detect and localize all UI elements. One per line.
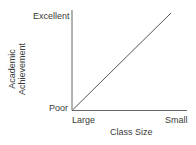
y-axis-title-line-2: Achievement — [17, 43, 27, 95]
y-tick-poor: Poor — [49, 103, 68, 113]
data-line — [73, 13, 172, 110]
y-tick-excellent: Excellent — [33, 11, 70, 21]
x-axis-title: Class Size — [110, 127, 153, 137]
x-tick-small: Small — [165, 115, 188, 125]
x-tick-large: Large — [72, 115, 95, 125]
y-axis-title: Academic Achievement — [4, 36, 30, 102]
y-axis-title-line-1: Academic — [7, 43, 17, 95]
